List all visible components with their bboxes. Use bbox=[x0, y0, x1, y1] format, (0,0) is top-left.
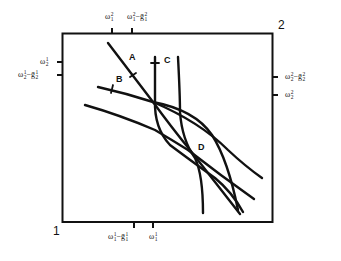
origin-2-label: 2 bbox=[278, 18, 285, 32]
curve-a bbox=[108, 43, 240, 214]
point-b-label: B bbox=[116, 74, 123, 84]
top-label-omega-1-2: ω21 bbox=[105, 12, 114, 22]
bottom-label-omega-1-1: ω11 bbox=[149, 232, 158, 242]
curve-c bbox=[155, 57, 243, 212]
point-d-label: D bbox=[198, 142, 205, 152]
top-label-omega-minus-g: ω21−ḡ21 bbox=[127, 12, 147, 22]
left-label-omega-minus-g: ω12−ḡ12 bbox=[18, 70, 38, 80]
bottom-label-omega-minus-g: ω11−ḡ11 bbox=[108, 232, 128, 242]
left-label-omega-2-1: ω12 bbox=[40, 57, 49, 67]
point-c-label: C bbox=[164, 55, 171, 65]
edgeworth-box-diagram bbox=[0, 0, 341, 261]
right-label-omega-minus-g: ω22−ḡ22 bbox=[285, 72, 305, 82]
right-label-omega-2-2: ω22 bbox=[285, 90, 294, 100]
origin-1-label: 1 bbox=[53, 224, 60, 238]
curve-right-vertical bbox=[178, 57, 203, 213]
point-a-label: A bbox=[129, 52, 136, 62]
tick-b bbox=[111, 85, 113, 93]
